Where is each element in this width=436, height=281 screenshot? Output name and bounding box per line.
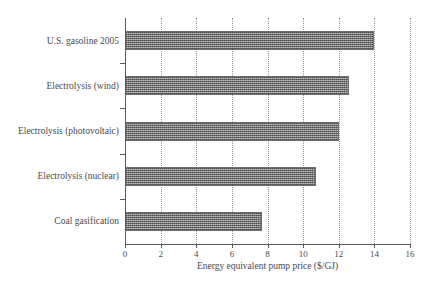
x-tick-label: 2 xyxy=(158,249,163,259)
y-tick xyxy=(120,63,125,64)
x-tick-label: 10 xyxy=(299,249,308,259)
x-axis-title: Energy equivalent pump price ($/GJ) xyxy=(125,261,410,271)
y-tick xyxy=(120,199,125,200)
y-axis-line xyxy=(125,18,126,244)
y-tick xyxy=(120,154,125,155)
category-label: Electrolysis (nuclear) xyxy=(0,171,119,181)
gridline-12 xyxy=(339,18,340,244)
x-tick xyxy=(161,244,162,248)
gridline-16 xyxy=(410,18,411,244)
bar xyxy=(125,167,316,186)
category-label: Coal gasification xyxy=(0,216,119,226)
x-tick-label: 8 xyxy=(265,249,270,259)
x-tick-label: 14 xyxy=(370,249,379,259)
x-tick xyxy=(339,244,340,248)
y-tick xyxy=(120,108,125,109)
bar xyxy=(125,212,262,231)
category-label: Electrolysis (wind) xyxy=(0,81,119,91)
bar-chart: U.S. gasoline 2005Electrolysis (wind)Ele… xyxy=(0,0,436,281)
x-tick-label: 6 xyxy=(230,249,235,259)
x-tick-label: 0 xyxy=(123,249,128,259)
gridline-14 xyxy=(374,18,375,244)
x-tick xyxy=(410,244,411,248)
x-tick xyxy=(268,244,269,248)
x-tick xyxy=(374,244,375,248)
x-tick xyxy=(303,244,304,248)
x-tick xyxy=(125,244,126,248)
bar xyxy=(125,31,374,50)
category-label: Electrolysis (photovoltaic) xyxy=(0,126,119,136)
x-tick xyxy=(232,244,233,248)
category-label: U.S. gasoline 2005 xyxy=(0,36,119,46)
bar xyxy=(125,122,339,141)
x-tick xyxy=(196,244,197,248)
x-tick-label: 16 xyxy=(406,249,415,259)
x-tick-label: 12 xyxy=(334,249,343,259)
bar xyxy=(125,76,349,95)
x-tick-label: 4 xyxy=(194,249,199,259)
